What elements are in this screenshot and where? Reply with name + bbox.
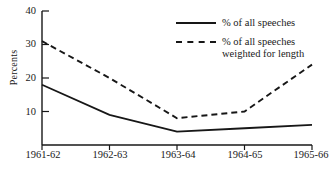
series-line-all-speeches xyxy=(42,85,312,132)
legend-swatch-dashed-line-icon xyxy=(176,36,216,48)
legend-item-weighted-for-length: % of all speeches weighted for length xyxy=(176,36,304,61)
legend-item-all-speeches: % of all speeches xyxy=(176,17,304,30)
y-axis-ticks xyxy=(42,11,49,112)
x-axis-ticks xyxy=(42,145,312,150)
legend-swatch-solid-line-icon xyxy=(176,17,216,29)
legend-label-all-speeches: % of all speeches xyxy=(222,17,295,30)
legend: % of all speeches % of all speeches weig… xyxy=(176,17,304,67)
legend-label-weighted-for-length: % of all speeches weighted for length xyxy=(222,36,304,61)
line-chart-figure: Percents 40 30 20 10 1961-62 1962-63 196… xyxy=(0,0,334,174)
